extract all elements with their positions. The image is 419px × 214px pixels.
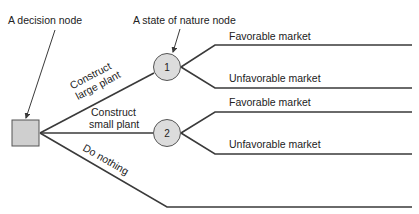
- chance-node-2-label: 2: [164, 128, 170, 139]
- branch-node1-favorable: [181, 45, 412, 67]
- branch-do-nothing: [40, 133, 412, 207]
- decision-tree-diagram: A decision node A state of nature node 1…: [0, 0, 419, 214]
- outcome-node2-favorable: Favorable market: [229, 96, 311, 108]
- chance-node-1-label: 1: [164, 62, 170, 73]
- outcome-node1-favorable: Favorable market: [229, 30, 311, 42]
- state-of-nature-annotation: A state of nature node: [133, 14, 236, 26]
- label-construct-small-2: small plant: [89, 118, 139, 130]
- outcome-node2-unfavorable: Unfavorable market: [229, 138, 321, 150]
- outcome-node1-unfavorable: Unfavorable market: [229, 72, 321, 84]
- label-construct-small-1: Construct: [91, 106, 136, 118]
- decision-node-pointer-arrow: [26, 30, 55, 118]
- state-of-nature-pointer-arrow: [173, 29, 180, 52]
- decision-node-square: [12, 120, 39, 146]
- decision-node-annotation: A decision node: [8, 14, 82, 26]
- branch-node2-favorable: [181, 112, 412, 133]
